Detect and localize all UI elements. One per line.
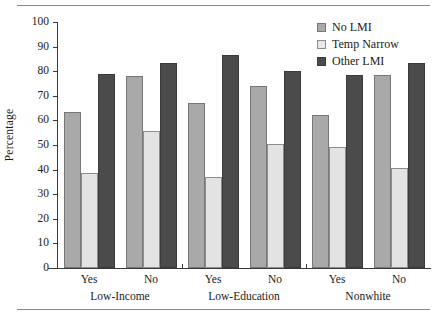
y-axis-ticks: 0102030405060708090100 [0,0,58,269]
bottom-rule [17,309,430,310]
y-axis-tick-label: 60 [38,115,50,127]
bar [267,144,284,268]
y-axis-tick-label: 100 [32,16,49,28]
x-axis-line [48,268,431,269]
x-axis-tick-label: Yes [205,273,222,285]
x-axis-group-label: Low-Education [208,290,280,302]
y-axis-tick-label: 80 [38,65,50,77]
bar [374,75,391,268]
y-axis-tick-label: 10 [38,238,50,250]
x-axis-group-label: Low-Income [90,290,149,302]
bar [81,173,98,268]
bar [312,115,329,268]
bar [329,147,346,268]
y-axis-tick-label: 90 [38,41,50,53]
bar [391,168,408,268]
bar [250,86,267,268]
legend-swatch-icon [317,23,326,32]
bar [160,63,177,268]
y-axis-tick-label: 70 [38,90,50,102]
y-axis-tick-label: 40 [38,164,50,176]
bar [284,71,301,268]
legend-item-label: Temp Narrow [332,37,399,52]
y-axis-tick-label: 50 [38,139,50,151]
bar [222,55,239,268]
legend-item-label: No LMI [332,20,372,35]
chart-legend: No LMITemp NarrowOther LMI [317,19,399,70]
bar [143,131,160,268]
bar [64,112,81,268]
legend-item[interactable]: Temp Narrow [317,36,399,52]
x-axis-tick-label: Yes [81,273,98,285]
bar-group [120,22,182,268]
figure: Percentage 0102030405060708090100 YesNoY… [0,0,447,319]
bar [205,177,222,268]
x-axis-tick-label: No [268,273,282,285]
legend-swatch-icon [317,40,326,49]
x-axis-tick-label: Yes [329,273,346,285]
legend-item[interactable]: Other LMI [317,53,399,69]
x-axis-group-label: Nonwhite [345,290,390,302]
y-axis-tick-label: 20 [38,213,50,225]
bar [188,103,205,268]
x-axis-tick-label: No [392,273,406,285]
x-axis-tick-label: No [144,273,158,285]
legend-item[interactable]: No LMI [317,19,399,35]
bar-group [182,22,244,268]
legend-item-label: Other LMI [332,54,384,69]
bar [346,75,363,268]
y-axis-tick-label: 30 [38,188,50,200]
bar-group [58,22,120,268]
bar [98,74,115,268]
x-axis-group-separator [306,264,307,269]
top-rule [17,5,430,6]
bar [126,76,143,268]
legend-swatch-icon [317,57,326,66]
bar [408,63,425,268]
bar-group [244,22,306,268]
x-axis-group-separator [182,264,183,269]
